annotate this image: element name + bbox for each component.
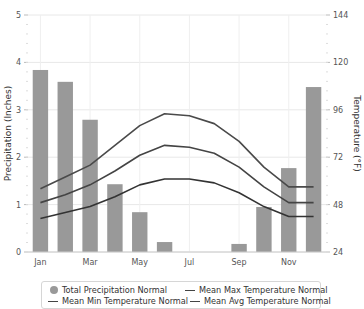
legend-item-avg-temp[interactable]: Mean Avg Temperature Normal xyxy=(190,296,331,306)
precipitation-bar[interactable] xyxy=(82,120,97,252)
line-swatch-icon xyxy=(48,301,58,302)
left-tick-label: 0 xyxy=(16,248,21,257)
x-tick-label: Mar xyxy=(83,258,99,267)
x-tick-label: May xyxy=(131,258,148,267)
legend-item-min-temp[interactable]: Mean Min Temperature Normal xyxy=(48,296,188,306)
right-tick-label: 120 xyxy=(333,58,348,67)
x-tick-label: Nov xyxy=(281,258,297,267)
right-tick-label: 144 xyxy=(333,11,348,20)
line-swatch-icon xyxy=(190,301,200,302)
precipitation-bar[interactable] xyxy=(132,212,147,252)
precipitation-bar[interactable] xyxy=(256,207,271,252)
legend-item-max-temp[interactable]: Mean Max Temperature Normal xyxy=(185,285,328,295)
precipitation-bar[interactable] xyxy=(157,242,172,252)
left-axis-title: Precipitation (Inches) xyxy=(3,86,13,181)
line-swatch-icon xyxy=(185,290,195,291)
legend-item-precipitation[interactable]: Total Precipitation Normal xyxy=(50,285,167,295)
x-tick-label: Jan xyxy=(33,258,46,267)
right-tick-label: 96 xyxy=(333,106,343,115)
right-axis: 24487296120144Temperature (°F) xyxy=(326,11,362,257)
precipitation-bars xyxy=(33,70,322,252)
precipitation-bar[interactable] xyxy=(231,244,246,252)
left-tick-label: 3 xyxy=(16,106,21,115)
right-tick-label: 24 xyxy=(333,248,343,257)
precipitation-bar[interactable] xyxy=(33,70,48,252)
temperature-line[interactable] xyxy=(40,179,313,219)
left-tick-label: 1 xyxy=(16,201,21,210)
circle-swatch-icon xyxy=(50,286,58,294)
chart-canvas: 012345Precipitation (Inches)244872961201… xyxy=(0,0,364,280)
x-tick-label: Sep xyxy=(232,258,247,267)
temperature-line[interactable] xyxy=(40,114,313,189)
right-tick-label: 72 xyxy=(333,153,343,162)
precipitation-bar[interactable] xyxy=(281,168,296,252)
left-tick-label: 2 xyxy=(16,153,21,162)
legend-label: Mean Min Temperature Normal xyxy=(62,296,188,306)
chart-legend: Total Precipitation Normal Mean Max Temp… xyxy=(41,281,321,309)
right-tick-label: 48 xyxy=(333,201,343,210)
x-tick-label: Jul xyxy=(184,258,195,267)
precipitation-bar[interactable] xyxy=(306,87,321,252)
legend-label: Total Precipitation Normal xyxy=(62,285,167,295)
x-axis: JanMarMayJulSepNov xyxy=(33,258,297,267)
precipitation-bar[interactable] xyxy=(58,82,73,252)
left-tick-label: 5 xyxy=(16,11,21,20)
legend-label: Mean Avg Temperature Normal xyxy=(204,296,331,306)
left-tick-label: 4 xyxy=(16,58,21,67)
right-axis-title: Temperature (°F) xyxy=(352,94,362,172)
legend-label: Mean Max Temperature Normal xyxy=(199,285,328,295)
left-axis: 012345Precipitation (Inches) xyxy=(3,11,28,257)
